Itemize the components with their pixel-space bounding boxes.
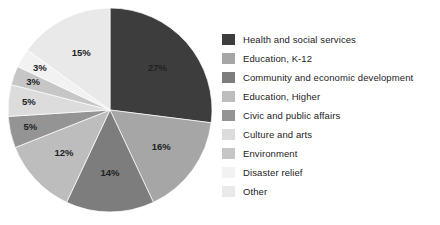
- legend-color-swatch: [222, 167, 235, 178]
- legend-item-label: Health and social services: [243, 34, 356, 45]
- legend-item-label: Civic and public affairs: [243, 110, 340, 121]
- legend: Health and social servicesEducation, K-1…: [215, 24, 440, 201]
- legend-item-label: Community and economic development: [243, 72, 413, 83]
- legend-item[interactable]: Health and social services: [222, 30, 440, 49]
- legend-item[interactable]: Other: [222, 182, 440, 201]
- pie-slice-value-label: 16%: [152, 141, 172, 152]
- legend-item[interactable]: Education, Higher: [222, 87, 440, 106]
- legend-item[interactable]: Education, K-12: [222, 49, 440, 68]
- legend-item[interactable]: Community and economic development: [222, 68, 440, 87]
- legend-item-label: Education, K-12: [243, 53, 312, 64]
- legend-item[interactable]: Civic and public affairs: [222, 106, 440, 125]
- legend-color-swatch: [222, 91, 235, 102]
- legend-item-label: Disaster relief: [243, 167, 303, 178]
- legend-color-swatch: [222, 110, 235, 121]
- pie-slice-value-label: 5%: [24, 121, 38, 132]
- pie-chart-figure: 27%16%14%12%5%5%3%3%15% Health and socia…: [0, 0, 440, 225]
- pie-svg: 27%16%14%12%5%5%3%3%15%: [0, 0, 215, 225]
- legend-item-label: Other: [243, 186, 267, 197]
- legend-color-swatch: [222, 148, 235, 159]
- pie-slice-value-label: 3%: [26, 76, 40, 87]
- legend-item[interactable]: Environment: [222, 144, 440, 163]
- pie-slice-value-label: 15%: [72, 47, 92, 58]
- pie-slice-value-label: 27%: [148, 62, 168, 73]
- legend-item[interactable]: Disaster relief: [222, 163, 440, 182]
- legend-item-label: Education, Higher: [243, 91, 320, 102]
- pie-slices-group: [8, 8, 212, 212]
- legend-color-swatch: [222, 129, 235, 140]
- pie-plot-area: 27%16%14%12%5%5%3%3%15%: [0, 0, 215, 225]
- legend-item[interactable]: Culture and arts: [222, 125, 440, 144]
- legend-color-swatch: [222, 72, 235, 83]
- legend-item-label: Culture and arts: [243, 129, 312, 140]
- legend-item-label: Environment: [243, 148, 297, 159]
- pie-slice-value-label: 12%: [54, 147, 74, 158]
- pie-slice-value-label: 5%: [22, 96, 36, 107]
- legend-color-swatch: [222, 34, 235, 45]
- legend-color-swatch: [222, 53, 235, 64]
- pie-slice-value-label: 3%: [33, 62, 47, 73]
- pie-slice-value-label: 14%: [100, 167, 120, 178]
- legend-color-swatch: [222, 186, 235, 197]
